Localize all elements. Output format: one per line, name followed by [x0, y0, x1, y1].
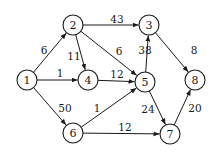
edge-weight-label: 11 [67, 50, 80, 62]
edge-weight-label: 24 [141, 103, 155, 115]
node-5: 5 [135, 72, 155, 92]
edge-weight-label: 12 [110, 68, 123, 80]
edge-4-5 [98, 80, 135, 81]
arrow-icon [81, 31, 137, 75]
node-8: 8 [185, 70, 205, 90]
edge-weight-label: 43 [110, 13, 123, 25]
arrow-icon [155, 33, 188, 72]
edge-weight-label: 38 [138, 44, 151, 56]
edge-2-5 [81, 31, 137, 75]
node-label: 1 [24, 74, 31, 87]
node-label: 7 [167, 128, 174, 141]
node-3: 3 [139, 15, 159, 35]
arrow-icon [83, 133, 160, 134]
node-label: 2 [70, 19, 77, 32]
edge-weight-label: 20 [188, 102, 201, 114]
network-graph: 615043116123811224820 12345678 [0, 0, 217, 158]
edge-weight-label: 6 [116, 45, 123, 57]
node-7: 7 [160, 124, 180, 144]
node-1: 1 [17, 70, 37, 90]
node-2: 2 [63, 15, 83, 35]
node-label: 3 [146, 19, 153, 32]
edge-6-7 [83, 133, 160, 134]
edge-weight-label: 1 [94, 102, 101, 114]
arrow-icon [98, 80, 135, 81]
edge-3-8 [155, 33, 188, 72]
node-label: 6 [70, 127, 77, 140]
node-label: 8 [192, 74, 199, 87]
edge-weight-label: 50 [58, 102, 71, 114]
edge-weight-label: 12 [118, 121, 131, 133]
node-4: 4 [78, 70, 98, 90]
node-label: 4 [85, 74, 92, 87]
edge-weight-label: 6 [41, 44, 48, 56]
node-6: 6 [63, 123, 83, 143]
edge-weight-label: 8 [191, 44, 198, 56]
edge-weight-label: 1 [57, 67, 64, 79]
node-label: 5 [142, 76, 149, 89]
